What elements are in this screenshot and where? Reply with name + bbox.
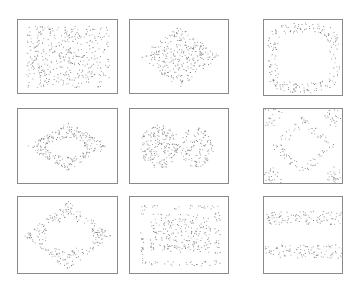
scatter-panel-3 xyxy=(263,19,343,96)
scatter-panel-1 xyxy=(17,19,118,94)
scatter-panel-9 xyxy=(263,196,343,274)
scatter-panel-5 xyxy=(129,108,229,184)
scatter-points xyxy=(18,197,117,273)
scatter-points xyxy=(130,20,228,93)
scatter-points xyxy=(130,197,228,273)
scatter-points xyxy=(264,197,342,273)
scatter-points xyxy=(18,20,117,93)
scatter-panel-6 xyxy=(263,108,343,184)
scatter-panel-8 xyxy=(129,196,229,274)
scatter-points xyxy=(264,20,342,95)
scatter-panel-7 xyxy=(17,196,118,274)
scatter-points xyxy=(18,109,117,183)
scatter-panel-2 xyxy=(129,19,229,94)
scatter-panel-4 xyxy=(17,108,118,184)
scatter-points xyxy=(264,109,342,183)
scatter-points xyxy=(130,109,228,183)
